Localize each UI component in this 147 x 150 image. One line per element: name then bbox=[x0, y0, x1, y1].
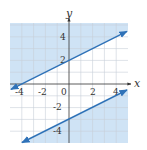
x-tick-label: 2 bbox=[90, 87, 96, 97]
x-tick-label: -2 bbox=[38, 87, 47, 97]
x-tick-label: -4 bbox=[15, 87, 24, 97]
inequality-graph: x y -4 -2 0 2 4 4 2 -2 -4 bbox=[0, 0, 147, 150]
y-tick-label: -4 bbox=[53, 126, 62, 136]
x-axis-label: x bbox=[134, 77, 141, 90]
y-axis-label: y bbox=[65, 7, 73, 20]
y-tick-label: -2 bbox=[53, 102, 62, 112]
x-tick-label: 0 bbox=[61, 87, 67, 97]
y-tick-label: 4 bbox=[60, 32, 66, 42]
